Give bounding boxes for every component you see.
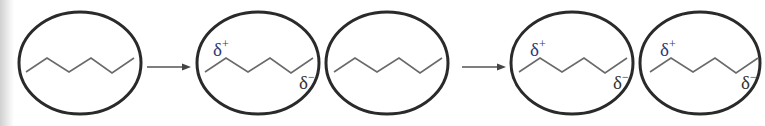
- hexane-chain: [205, 58, 313, 73]
- hexane-chain: [334, 58, 442, 73]
- delta-minus-label: δ−: [613, 70, 629, 93]
- molecule-boundary-ellipse: [640, 12, 760, 114]
- hexane-chain: [650, 58, 758, 73]
- dispersion-diagram: δ+ δ− δ+ δ− δ+ δ−: [0, 0, 765, 126]
- arrow-head-icon: [182, 64, 191, 71]
- molecule-3-nonpolar: [326, 12, 448, 114]
- arrow-1: [147, 64, 191, 71]
- molecule-5-induced-dipole: δ+ δ−: [640, 12, 760, 114]
- delta-minus-label: δ−: [741, 70, 757, 93]
- molecule-4-induced-dipole: δ+ δ−: [511, 12, 633, 114]
- molecule-2-induced-dipole: δ+ δ−: [197, 12, 319, 114]
- molecule-boundary-ellipse: [326, 12, 448, 114]
- molecule-boundary-ellipse: [19, 12, 141, 114]
- delta-minus-label: δ−: [299, 70, 315, 93]
- hexane-chain: [26, 58, 134, 73]
- delta-plus-label: δ+: [660, 37, 676, 60]
- delta-plus-label: δ+: [213, 37, 229, 60]
- molecule-1-nonpolar: [19, 12, 141, 114]
- molecule-boundary-ellipse: [511, 12, 633, 114]
- molecule-boundary-ellipse: [197, 12, 319, 114]
- arrow-head-icon: [497, 64, 506, 71]
- hexane-chain: [519, 58, 627, 73]
- delta-plus-label: δ+: [530, 37, 546, 60]
- arrow-2: [462, 64, 506, 71]
